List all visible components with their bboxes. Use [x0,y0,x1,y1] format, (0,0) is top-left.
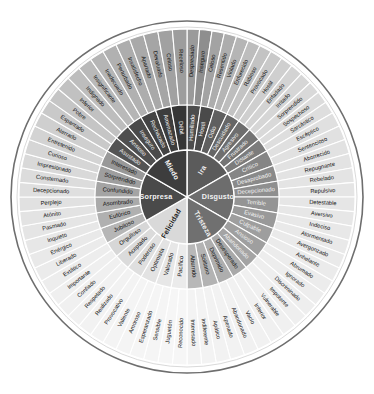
outer-label-repulsivo-1-2-1: Repulsivo [310,187,335,194]
outer-label-despreciado-0-0-0: Despreciado [188,45,195,77]
outer-label-detestable-1-3-0: Detestable [309,199,336,206]
outer-label-perplejo-4-2-1: Perplejo [41,199,62,206]
mid-label-debil-5-5: Débil [178,121,185,135]
core-label-disgusto: Disgusto [202,192,235,201]
emotion-wheel-svg: DespreciadoInseguroCelosoResentidoViolad… [0,0,374,394]
core-label-sorpresa: Sorpresa [140,192,174,201]
emotion-wheel-container: DespreciadoInseguroCelosoResentidoViolad… [0,0,374,394]
outer-label-receloso-5-5-1: Receloso [178,49,185,73]
outer-label-interesado-2-5-1: Interesado [190,319,197,346]
